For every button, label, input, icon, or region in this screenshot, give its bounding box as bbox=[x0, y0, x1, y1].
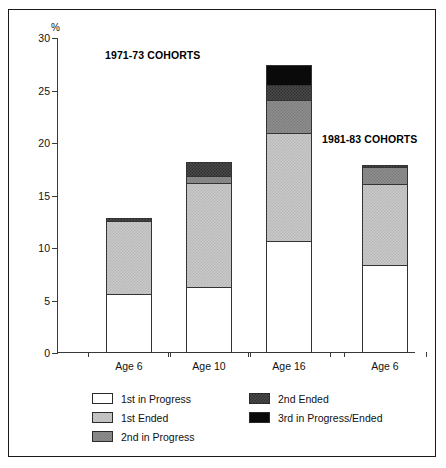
y-axis-tick-label: 15 bbox=[38, 190, 50, 202]
x-axis-tick-mark bbox=[170, 352, 171, 357]
bar-segment bbox=[106, 295, 152, 353]
bar-segment bbox=[186, 177, 232, 184]
dark-gray-swatch bbox=[249, 393, 270, 404]
y-axis-tick-mark bbox=[52, 196, 58, 197]
y-axis-tick-mark bbox=[52, 248, 58, 249]
y-axis-tick-mark bbox=[52, 143, 58, 144]
x-axis-label: Age 6 bbox=[115, 360, 142, 372]
legend-column-right: 2nd Ended3rd in Progress/Ended bbox=[249, 389, 382, 427]
y-axis-tick-mark bbox=[52, 353, 58, 354]
medium-gray-swatch bbox=[92, 431, 113, 442]
y-axis-tick-label: 20 bbox=[38, 137, 50, 149]
x-axis-label: Age 10 bbox=[192, 360, 225, 372]
bar-segment bbox=[362, 185, 408, 266]
bar-segment bbox=[362, 266, 408, 353]
legend-item-label: 3rd in Progress/Ended bbox=[278, 412, 382, 424]
stacked-bar bbox=[266, 65, 312, 353]
y-axis-tick-label: 0 bbox=[44, 347, 50, 359]
stacked-bar bbox=[362, 165, 408, 353]
stacked-bar bbox=[186, 162, 232, 353]
legend-column-left: 1st in Progress1st Ended2nd in Progress bbox=[92, 389, 195, 446]
y-axis-tick-label: 30 bbox=[38, 32, 50, 44]
legend-item: 2nd in Progress bbox=[92, 427, 195, 446]
legend-item-label: 2nd in Progress bbox=[121, 431, 195, 443]
legend-item: 2nd Ended bbox=[249, 389, 382, 408]
bar-segment bbox=[362, 168, 408, 185]
bar-segment bbox=[186, 162, 232, 177]
legend-item-label: 1st Ended bbox=[121, 412, 168, 424]
black-swatch bbox=[249, 412, 270, 423]
y-axis-tick-label: 10 bbox=[38, 242, 50, 254]
y-axis-tick-mark bbox=[52, 301, 58, 302]
plot-area: 051015202530 Age 6Age 10Age 16Age 6 bbox=[57, 38, 415, 353]
y-axis-tick-mark bbox=[52, 91, 58, 92]
chart-figure: % 1971-73 COHORTS 1981-83 COHORTS 051015… bbox=[0, 0, 446, 468]
bar-segment bbox=[106, 222, 152, 296]
x-axis-label: Age 16 bbox=[272, 360, 305, 372]
bar-segment bbox=[186, 184, 232, 288]
bar-segment bbox=[186, 288, 232, 353]
legend-item-label: 2nd Ended bbox=[278, 393, 329, 405]
white-swatch bbox=[92, 393, 113, 404]
y-axis-tick-label: 5 bbox=[44, 295, 50, 307]
bar-segment bbox=[266, 65, 312, 86]
stacked-bar bbox=[106, 218, 152, 353]
x-axis-tick-mark bbox=[426, 352, 427, 357]
legend-item: 1st Ended bbox=[92, 408, 195, 427]
x-axis-tick-mark bbox=[88, 352, 89, 357]
light-gray-swatch bbox=[92, 412, 113, 423]
bar-segment bbox=[266, 134, 312, 242]
x-axis-label: Age 6 bbox=[371, 360, 398, 372]
legend-item: 1st in Progress bbox=[92, 389, 195, 408]
y-axis-tick-label: 25 bbox=[38, 85, 50, 97]
x-axis-tick-mark bbox=[330, 352, 331, 357]
x-axis-tick-mark bbox=[250, 352, 251, 357]
x-axis-tick-mark bbox=[168, 352, 169, 357]
y-axis-unit-label: % bbox=[51, 22, 60, 33]
x-axis-tick-mark bbox=[248, 352, 249, 357]
bar-segment bbox=[266, 86, 312, 101]
y-axis-tick-mark bbox=[52, 38, 58, 39]
x-axis-tick-mark bbox=[344, 352, 345, 357]
legend-item-label: 1st in Progress bbox=[121, 393, 191, 405]
legend-item: 3rd in Progress/Ended bbox=[249, 408, 382, 427]
bar-segment bbox=[266, 242, 312, 353]
bar-segment bbox=[266, 101, 312, 134]
